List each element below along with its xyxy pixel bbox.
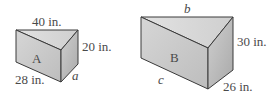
- prism-a: A 40 in. 20 in. 28 in. a: [15, 14, 112, 87]
- prism-a-bottom-left-label: 28 in.: [15, 72, 45, 87]
- prism-b-bottom-left-label: c: [158, 72, 164, 87]
- prism-b-top-label: b: [184, 1, 191, 16]
- prism-b-right-label: 30 in.: [237, 34, 267, 49]
- prism-a-right-label: 20 in.: [82, 39, 112, 54]
- prism-b-bottom-right-label: 26 in.: [223, 79, 253, 94]
- prisms-diagram: A 40 in. 20 in. 28 in. a B b 30 in. c 26…: [0, 0, 280, 98]
- prism-a-name: A: [32, 51, 42, 66]
- prism-a-top-label: 40 in.: [32, 14, 62, 29]
- prism-a-bottom-right-label: a: [72, 68, 79, 83]
- prism-b-name: B: [170, 50, 179, 65]
- prism-b: B b 30 in. c 26 in.: [141, 1, 267, 94]
